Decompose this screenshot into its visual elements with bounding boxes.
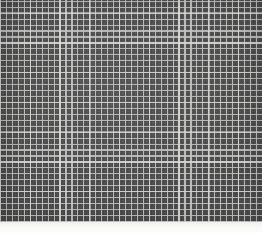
grid-shading-overlay	[0, 0, 262, 222]
grid-vignette-overlay	[0, 0, 262, 222]
pattern-canvas	[0, 0, 262, 233]
grid-surface	[0, 0, 262, 222]
grid-minor-lines	[0, 0, 262, 222]
grid-noise-texture	[0, 0, 262, 222]
bottom-light-band	[0, 222, 262, 233]
grid-major-lines	[0, 0, 262, 222]
